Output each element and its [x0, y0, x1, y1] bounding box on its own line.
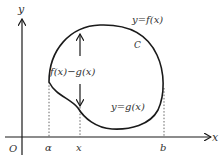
tick-label-b: b [160, 142, 166, 153]
lower-curve-label: y=g(x) [110, 101, 145, 112]
origin-label: O [9, 143, 17, 154]
diagram-canvas: y x O α x b y=f(x) C y=g(x) f(x)−g(x) [0, 0, 222, 155]
x-axis-label: x [212, 131, 219, 144]
tick-label-alpha: α [45, 142, 52, 153]
closed-curve-c [49, 25, 163, 129]
y-axis-label: y [17, 3, 25, 16]
closed-curve-label: C [134, 40, 141, 50]
height-label: f(x)−g(x) [49, 66, 95, 77]
tick-label-x: x [76, 142, 82, 153]
upper-curve-label: y=f(x) [131, 14, 163, 25]
